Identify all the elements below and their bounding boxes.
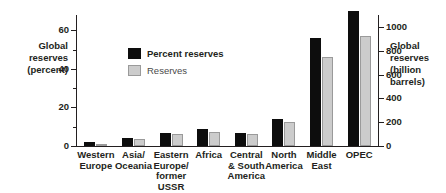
- bar-reserves: [284, 122, 295, 146]
- legend-swatch-light-icon: [128, 65, 141, 76]
- bar-percent-reserves: [122, 138, 133, 146]
- left-tick-minor-10: [73, 127, 76, 128]
- bar-percent-reserves: [235, 133, 246, 146]
- right-tick-1000: [379, 27, 384, 28]
- legend-item-reserves: Reserves: [128, 64, 224, 77]
- right-tick-600: [379, 75, 384, 76]
- left-ticklabel-0: 0: [45, 141, 69, 151]
- right-tick-800: [379, 51, 384, 52]
- category-label-line: former: [147, 171, 195, 182]
- category-label-line: OPEC: [335, 150, 383, 161]
- right-ticklabel-1000: 1000: [386, 22, 416, 32]
- chart-figure: Global reserves (percent) Global reserve…: [0, 0, 446, 192]
- left-tick-minor-30: [73, 88, 76, 89]
- right-ticklabel-0: 0: [386, 141, 416, 151]
- right-tick-400: [379, 98, 384, 99]
- bar-series-group: [77, 15, 378, 146]
- left-tick-40: [71, 69, 76, 70]
- category-label-line: USSR: [147, 182, 195, 193]
- bar-reserves: [247, 134, 258, 146]
- right-ticklabel-400: 400: [386, 93, 416, 103]
- left-tick-60: [71, 30, 76, 31]
- left-tick-minor-50: [73, 50, 76, 51]
- category-label-line: America: [222, 171, 270, 182]
- legend-swatch-dark-icon: [128, 48, 141, 59]
- left-ticklabel-20: 20: [45, 102, 69, 112]
- chart-legend: Percent reserves Reserves: [128, 47, 224, 81]
- left-ticklabel-40: 40: [45, 64, 69, 74]
- legend-label-reserves: Reserves: [147, 65, 187, 76]
- bar-reserves: [96, 144, 107, 146]
- bar-reserves: [360, 36, 371, 146]
- left-tick-20: [71, 107, 76, 108]
- bar-percent-reserves: [310, 38, 321, 146]
- x-axis-line: [77, 146, 379, 147]
- right-tick-0: [379, 146, 384, 147]
- left-ticklabel-60: 60: [45, 25, 69, 35]
- legend-label-percent-reserves: Percent reserves: [147, 48, 224, 59]
- right-ticklabel-800: 800: [386, 46, 416, 56]
- bar-percent-reserves: [84, 142, 95, 146]
- left-axis-title-line-1: Global: [4, 40, 68, 52]
- right-axis-line: [378, 15, 379, 147]
- category-label-line: East: [298, 161, 346, 172]
- right-tick-200: [379, 122, 384, 123]
- bar-percent-reserves: [272, 119, 283, 146]
- bar-reserves: [209, 132, 220, 146]
- bar-percent-reserves: [197, 129, 208, 146]
- bar-percent-reserves: [348, 11, 359, 146]
- legend-item-percent-reserves: Percent reserves: [128, 47, 224, 60]
- bar-percent-reserves: [160, 133, 171, 146]
- right-ticklabel-600: 600: [386, 70, 416, 80]
- bar-reserves: [134, 139, 145, 146]
- right-ticklabel-200: 200: [386, 117, 416, 127]
- category-label: OPEC: [335, 150, 383, 161]
- bar-reserves: [172, 134, 183, 147]
- bar-reserves: [322, 57, 333, 146]
- left-tick-0: [71, 146, 76, 147]
